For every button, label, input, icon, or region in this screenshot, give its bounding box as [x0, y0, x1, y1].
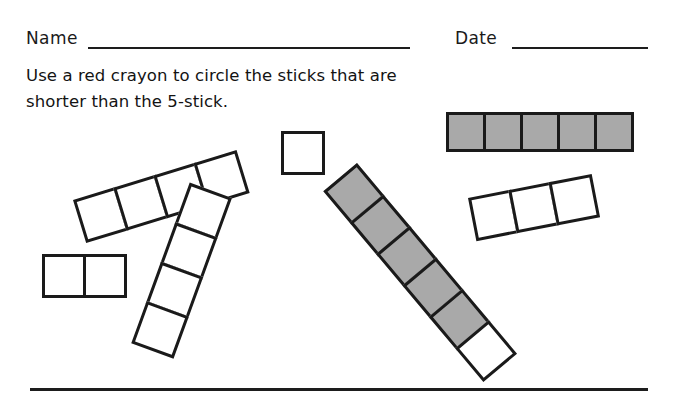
cube-cell — [520, 112, 560, 152]
cube-stick[interactable] — [42, 254, 127, 298]
worksheet-page: Name Date Use a red crayon to circle the… — [0, 0, 682, 404]
instruction-text: Use a red crayon to circle the sticks th… — [26, 63, 456, 115]
cube-cell — [42, 254, 86, 298]
reference-cube-stick[interactable] — [446, 112, 634, 152]
bottom-divider-rule — [30, 388, 648, 391]
cube-cell — [557, 112, 597, 152]
cube-stick[interactable] — [281, 131, 325, 175]
cube-cell — [83, 254, 127, 298]
cube-cell — [483, 112, 523, 152]
cube-cell — [281, 131, 325, 175]
instruction-line-2: shorter than the 5-stick. — [26, 89, 456, 115]
cube-cell — [548, 174, 600, 226]
cube-cell — [446, 112, 486, 152]
date-field-label: Date — [455, 28, 497, 48]
instruction-line-1: Use a red crayon to circle the sticks th… — [26, 63, 456, 89]
date-write-in-line[interactable] — [512, 47, 648, 49]
cube-stick[interactable] — [468, 174, 600, 241]
cube-cell — [594, 112, 634, 152]
name-field-label: Name — [26, 28, 78, 48]
name-write-in-line[interactable] — [88, 47, 410, 49]
